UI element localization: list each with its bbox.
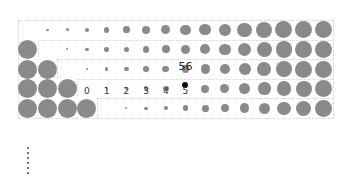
dot xyxy=(181,45,190,54)
dot xyxy=(219,24,232,37)
dot xyxy=(66,48,68,50)
big-circle xyxy=(58,79,77,98)
dot xyxy=(143,66,149,72)
big-circle xyxy=(38,79,57,98)
step-divider xyxy=(57,59,58,79)
column-label: 5 xyxy=(183,87,189,96)
dot xyxy=(296,81,312,97)
dot xyxy=(200,44,210,54)
dot xyxy=(125,107,127,109)
dot xyxy=(295,21,312,38)
dot xyxy=(277,81,291,95)
dot xyxy=(123,26,130,33)
step-divider xyxy=(77,79,78,99)
dot xyxy=(202,105,209,112)
continuation-dot xyxy=(27,167,29,169)
continuation-dot xyxy=(27,162,29,164)
dot xyxy=(201,85,209,93)
row-divider xyxy=(38,40,334,41)
staircase-dot-diagram: 01234556 xyxy=(0,0,347,180)
row-divider xyxy=(57,59,333,60)
dot xyxy=(258,82,271,95)
dot xyxy=(295,41,312,58)
step-divider xyxy=(38,40,39,60)
dot xyxy=(315,80,332,97)
row-divider xyxy=(77,79,333,80)
dot xyxy=(180,25,190,35)
dot xyxy=(315,41,332,58)
dot xyxy=(201,64,210,73)
dot xyxy=(220,64,230,74)
dot xyxy=(240,103,250,113)
dot xyxy=(142,26,150,34)
big-circle xyxy=(77,99,96,118)
dot xyxy=(85,28,89,32)
dot xyxy=(275,21,292,38)
big-circle xyxy=(18,79,37,98)
dot xyxy=(315,61,332,78)
dot xyxy=(164,106,168,110)
dot xyxy=(277,102,290,115)
dot xyxy=(237,23,251,37)
grid-line xyxy=(333,20,334,118)
dot xyxy=(238,43,251,56)
dot xyxy=(161,25,170,34)
dot xyxy=(219,44,230,55)
dot xyxy=(66,28,69,31)
dot xyxy=(276,41,293,58)
column-label: 3 xyxy=(143,87,149,96)
dot xyxy=(239,63,251,75)
highlight-value: 56 xyxy=(178,61,192,72)
big-circle xyxy=(18,60,37,79)
dot xyxy=(124,67,128,71)
big-circle xyxy=(58,99,77,118)
grid-line xyxy=(18,118,333,119)
column-label: 4 xyxy=(163,87,169,96)
dot xyxy=(259,103,270,114)
dot xyxy=(162,66,169,73)
dot xyxy=(256,22,272,38)
big-circle xyxy=(18,40,37,59)
dot xyxy=(144,107,147,110)
dot xyxy=(183,105,189,111)
continuation-dot xyxy=(27,157,29,159)
dot xyxy=(46,29,48,31)
dot xyxy=(295,61,312,78)
continuation-dot xyxy=(27,152,29,154)
dot xyxy=(162,45,170,53)
dot xyxy=(315,100,332,117)
dot xyxy=(104,47,108,51)
dot xyxy=(239,83,250,94)
dot xyxy=(86,68,88,70)
dot xyxy=(85,48,88,51)
column-label: 0 xyxy=(84,87,90,96)
dot xyxy=(143,46,150,53)
continuation-dot xyxy=(27,147,29,149)
dot xyxy=(220,84,229,93)
continuation-dot xyxy=(27,172,29,174)
big-circle xyxy=(38,99,57,118)
column-label: 1 xyxy=(104,87,110,96)
step-divider xyxy=(97,98,98,118)
column-label: 2 xyxy=(123,87,129,96)
dot xyxy=(257,42,272,57)
dot xyxy=(315,21,332,38)
dot xyxy=(257,62,271,76)
dot xyxy=(124,47,130,53)
big-circle xyxy=(18,99,37,118)
dot xyxy=(296,101,311,116)
row-divider xyxy=(97,98,333,99)
dot xyxy=(104,27,110,33)
dot xyxy=(221,104,229,112)
dot xyxy=(276,61,291,76)
big-circle xyxy=(38,60,57,79)
dot xyxy=(199,24,210,35)
dot xyxy=(105,67,108,70)
